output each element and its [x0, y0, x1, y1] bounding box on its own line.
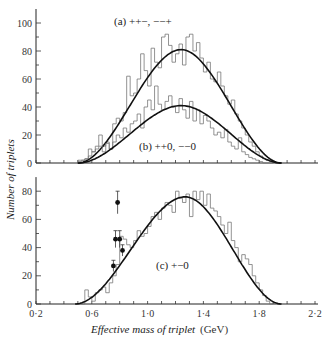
annotation-b: (b) ++0, −−0	[139, 140, 196, 153]
data-point	[113, 237, 118, 242]
y-tick-label: 60	[22, 74, 32, 85]
y-tick-label: 40	[22, 242, 32, 253]
data-point	[111, 264, 116, 269]
x-tick-label: 1·0	[141, 308, 154, 319]
annotation-a: (a) ++−, −−+	[114, 15, 172, 28]
data-point	[117, 237, 122, 242]
y-tick-label: 80	[22, 186, 32, 197]
x-tick-label: 0·2	[29, 308, 42, 319]
x-axis-title: Effective mass of triplet	[90, 323, 196, 335]
mass-histogram-chart: 020406080100 0204060800·20·61·01·41·82·2…	[0, 0, 325, 341]
y-tick-label: 80	[22, 46, 32, 57]
y-axis-title: Number of triplets	[4, 139, 16, 221]
annotation-c: (c) +−0	[156, 259, 189, 272]
data-point	[115, 200, 120, 205]
x-tick-label: 1·4	[197, 308, 210, 319]
data-point	[120, 248, 125, 253]
histogram-0	[78, 191, 273, 304]
y-tick-label: 40	[22, 102, 32, 113]
x-axis-unit: (GeV)	[200, 323, 228, 336]
fit-curve-1	[78, 106, 282, 163]
x-tick-label: 0·6	[85, 308, 98, 319]
y-tick-label: 60	[22, 214, 32, 225]
y-tick-label: 0	[27, 158, 32, 169]
bottom-panel: 0204060800·20·61·01·41·82·2	[22, 177, 322, 319]
y-tick-label: 20	[22, 130, 32, 141]
x-tick-label: 2·2	[308, 308, 321, 319]
y-tick-label: 100	[17, 18, 32, 29]
y-tick-label: 20	[22, 270, 32, 281]
x-tick-label: 1·8	[253, 308, 266, 319]
